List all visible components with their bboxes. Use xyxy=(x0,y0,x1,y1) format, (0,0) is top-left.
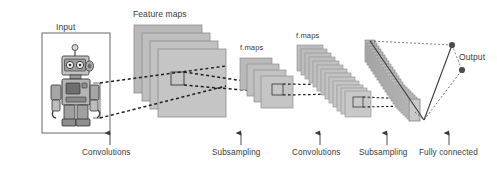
fmaps-stack-2 xyxy=(297,45,371,117)
output-node-2 xyxy=(459,67,465,73)
cnn-architecture-figure: Input Feature maps f.maps f.maps Output … xyxy=(0,0,497,178)
label-convolutions-2: Convolutions xyxy=(292,148,341,157)
label-convolutions-1: Convolutions xyxy=(82,148,131,157)
fmaps-stack-1 xyxy=(240,58,293,108)
subsampled-stack xyxy=(365,40,420,121)
label-subsampling-2: Subsampling xyxy=(359,148,407,157)
label-output: Output xyxy=(459,52,485,62)
label-fmaps-2: f.maps xyxy=(296,31,319,40)
stage-tick-marks xyxy=(110,133,449,145)
label-fully-connected: Fully connected xyxy=(419,148,478,157)
label-input: Input xyxy=(56,22,75,32)
output-node-1 xyxy=(449,42,455,48)
label-subsampling-1: Subsampling xyxy=(212,148,260,157)
label-feature-maps: Feature maps xyxy=(133,9,187,19)
feature-maps-stack xyxy=(134,25,226,117)
input-block xyxy=(42,33,110,133)
label-fmaps-1: f.maps xyxy=(240,43,263,52)
